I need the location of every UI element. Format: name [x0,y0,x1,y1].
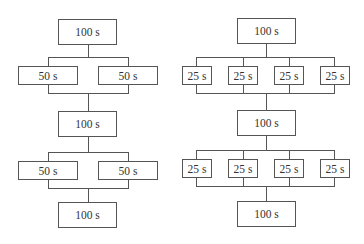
diagram-canvas: 100 s 50 s 50 s 100 s 50 s 50 s 100 s 10… [0,0,364,244]
right-stage2-box-2: 25 s [228,159,258,178]
right-bottom-100s-box: 100 s [237,201,296,227]
connector-line [88,45,89,57]
split-bracket-line [196,150,335,151]
connector-line [266,93,267,110]
right-stage2-box-4: 25 s [320,159,350,178]
right-top-100s-box: 100 s [237,18,296,44]
connector-line [266,186,267,201]
left-stage2-box-1: 50 s [18,161,78,180]
split-bracket-line [48,152,129,153]
left-stage1-box-2: 50 s [98,66,158,85]
split-bracket-line [48,57,129,58]
right-stage1-box-2: 25 s [228,66,258,85]
connector-line [88,137,89,152]
right-stage2-box-1: 25 s [182,159,212,178]
split-bracket-line [196,57,335,58]
left-top-100s-box: 100 s [58,19,117,45]
right-stage1-box-3: 25 s [274,66,304,85]
left-middle-100s-box: 100 s [58,111,117,137]
left-bottom-100s-box: 100 s [58,202,117,228]
connector-line [266,44,267,57]
right-stage1-box-1: 25 s [182,66,212,85]
right-stage2-box-3: 25 s [274,159,304,178]
left-stage1-box-1: 50 s [18,66,78,85]
connector-line [88,188,89,202]
left-stage2-box-2: 50 s [98,161,158,180]
connector-line [88,93,89,111]
right-middle-100s-box: 100 s [237,110,296,136]
connector-line [266,136,267,150]
right-stage1-box-4: 25 s [320,66,350,85]
